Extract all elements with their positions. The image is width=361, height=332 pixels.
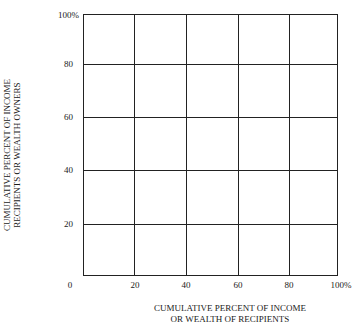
- x-tick-20: 20: [115, 280, 155, 290]
- gridline-y-20: [84, 224, 337, 225]
- y-tick-20: 20: [33, 219, 73, 229]
- x-axis-label-line-2: OR WEALTH OF RECIPIENTS: [130, 314, 330, 325]
- x-tick-40: 40: [166, 280, 206, 290]
- x-tick-0: 0: [50, 280, 90, 290]
- gridline-x-60: [238, 15, 239, 275]
- x-tick-100: 100%: [321, 280, 361, 290]
- x-tick-60: 60: [218, 280, 258, 290]
- lorenz-grid-chart: 100% 80 60 40 20 0 20 40 60 80 100% CUMU…: [0, 0, 361, 332]
- gridline-x-80: [289, 15, 290, 275]
- y-axis-label-line-2: RECIPIENTS OR WEALTH OWNERS: [12, 45, 22, 265]
- gridline-y-80: [84, 64, 337, 65]
- x-axis-label: CUMULATIVE PERCENT OF INCOME OR WEALTH O…: [130, 303, 330, 325]
- y-axis-label-line-1: CUMULATIVE PERCENT OF INCOME: [2, 45, 12, 265]
- y-tick-80: 80: [33, 59, 73, 69]
- y-tick-100: 100%: [39, 10, 79, 20]
- y-axis-label: CUMULATIVE PERCENT OF INCOME RECIPIENTS …: [2, 45, 22, 265]
- y-tick-40: 40: [33, 165, 73, 175]
- gridline-x-20: [134, 15, 135, 275]
- gridline-y-40: [84, 170, 337, 171]
- plot-area: [83, 14, 338, 276]
- x-axis-label-line-1: CUMULATIVE PERCENT OF INCOME: [130, 303, 330, 314]
- y-tick-60: 60: [33, 112, 73, 122]
- gridline-y-60: [84, 117, 337, 118]
- x-tick-80: 80: [269, 280, 309, 290]
- gridline-x-40: [186, 15, 187, 275]
